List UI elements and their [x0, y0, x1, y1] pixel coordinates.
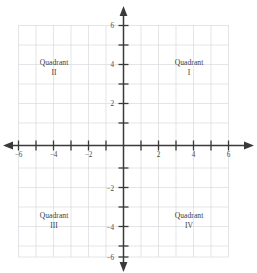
y-tick-label-neg2: −2 [106, 185, 114, 193]
x-tick-label-pos4: 4 [192, 151, 196, 159]
y-axis-arrow-down [120, 262, 128, 272]
quadrant-4-word: Quadrant [162, 211, 216, 221]
x-tick-label-pos2: 2 [157, 151, 161, 159]
x-axis-tick-labels: −6 −4 −2 2 4 6 [15, 151, 231, 159]
quadrant-1-label: Quadrant I [162, 58, 216, 77]
x-tick-label-neg4: −4 [50, 151, 58, 159]
y-tick-label-pos6: 6 [110, 22, 114, 30]
quadrant-3-word: Quadrant [27, 211, 81, 221]
x-axis-arrow-right [244, 142, 254, 150]
quadrant-2-numeral: II [27, 68, 81, 78]
y-tick-label-neg4: −4 [106, 224, 114, 232]
quadrant-2-label: Quadrant II [27, 58, 81, 77]
y-axis-arrow-up [120, 6, 128, 16]
quadrant-4-label: Quadrant IV [162, 211, 216, 230]
coordinate-plane-figure: −6 −4 −2 2 4 6 6 4 2 −2 −4 −6 Quadrant I… [0, 0, 257, 273]
quadrant-4-numeral: IV [162, 221, 216, 231]
quadrant-2-word: Quadrant [27, 58, 81, 68]
y-axis-tick-labels: 6 4 2 −2 −4 −6 [106, 22, 114, 261]
x-tick-label-pos6: 6 [227, 151, 231, 159]
quadrant-1-word: Quadrant [162, 58, 216, 68]
y-tick-label-pos2: 2 [110, 100, 114, 108]
x-tick-label-neg6: −6 [15, 151, 23, 159]
y-tick-label-pos4: 4 [110, 61, 114, 69]
x-tick-label-neg2: −2 [85, 151, 93, 159]
y-tick-label-neg6: −6 [106, 254, 114, 262]
cartesian-plane: −6 −4 −2 2 4 6 6 4 2 −2 −4 −6 [0, 0, 257, 273]
quadrant-3-numeral: III [27, 221, 81, 231]
y-axis [120, 6, 128, 272]
x-axis [3, 142, 254, 150]
quadrant-3-label: Quadrant III [27, 211, 81, 230]
quadrant-1-numeral: I [162, 68, 216, 78]
x-axis-arrow-left [3, 142, 13, 150]
